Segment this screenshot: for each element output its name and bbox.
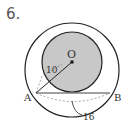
- dashed-arc: [36, 93, 110, 102]
- label-o: O: [67, 48, 76, 61]
- label-a: A: [23, 92, 32, 103]
- label-pointer: [72, 101, 82, 115]
- label-radius: 10: [46, 65, 58, 75]
- concentric-circles-diagram: O 10 A B 16: [0, 0, 133, 127]
- label-chord: 16: [83, 112, 95, 122]
- label-b: B: [114, 92, 121, 103]
